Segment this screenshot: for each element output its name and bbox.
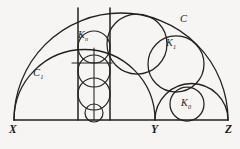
label-circle-kn: Kn [78,30,88,40]
label-c1-base: C [33,67,40,78]
label-kn-subscript: n [85,35,88,42]
chain-circle-k1 [148,36,204,92]
label-point-z: Z [225,124,232,136]
geometry-figure: X Y Z C C1 Kn K1 K0 [0,0,240,149]
semicircle-c-outer [14,13,228,120]
label-semicircle-c1: C1 [33,68,43,79]
label-semicircle-c: C [180,14,187,25]
label-k1-subscript: 1 [173,43,176,50]
label-kn-base: K [78,29,85,40]
chain-circle-k2 [107,14,167,74]
label-point-y: Y [151,124,158,136]
label-k0-base: K [181,97,188,108]
label-c1-subscript: 1 [40,73,43,80]
label-circle-k0: K0 [181,98,191,108]
semicircle-yz [155,83,228,120]
label-circle-k1: K1 [166,38,176,48]
label-k0-subscript: 0 [188,103,191,110]
label-k1-base: K [166,37,173,48]
label-point-x: X [9,124,17,136]
